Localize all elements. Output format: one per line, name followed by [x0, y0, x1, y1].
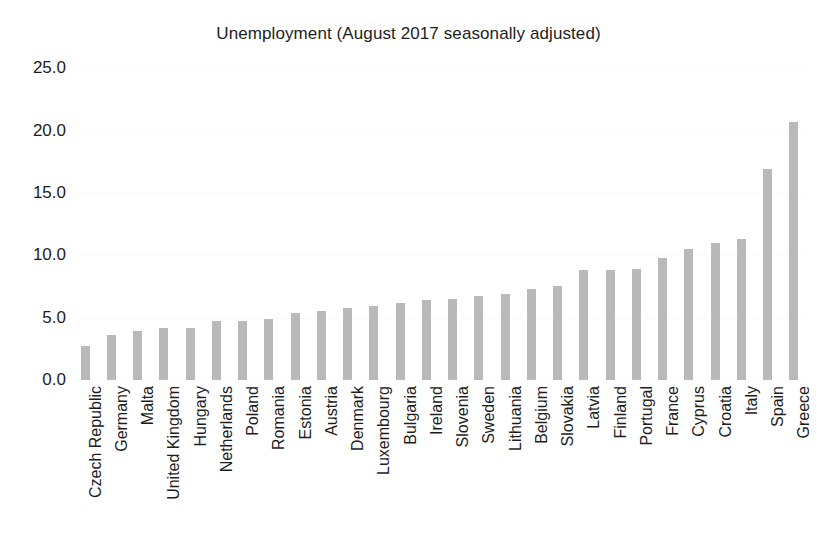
bar: [133, 331, 142, 380]
y-tick-label: 5.0: [0, 308, 66, 328]
bar: [369, 306, 378, 380]
x-tick-label: Slovenia: [455, 386, 471, 447]
x-tick-label: Czech Republic: [88, 386, 104, 498]
x-tick-label: France: [665, 386, 681, 436]
x-tick-label: Cyprus: [691, 386, 707, 437]
x-tick-label: Luxembourg: [376, 386, 392, 475]
y-tick-label: 10.0: [0, 245, 66, 265]
chart-figure: Unemployment (August 2017 seasonally adj…: [0, 0, 817, 552]
x-tick-label: Netherlands: [219, 386, 235, 472]
x-tick-label: Croatia: [718, 386, 734, 438]
x-tick-label: Lithuania: [508, 386, 524, 451]
x-tick-label: Malta: [140, 386, 156, 425]
bar: [107, 335, 116, 380]
bar: [448, 299, 457, 380]
x-tick-label: Denmark: [350, 386, 366, 451]
bar: [422, 300, 431, 380]
x-tick-label: Greece: [796, 386, 812, 438]
bar: [264, 319, 273, 380]
bar: [474, 296, 483, 380]
bar: [159, 328, 168, 380]
plot-area: [72, 57, 807, 380]
bar: [527, 289, 536, 380]
bar: [238, 321, 247, 380]
bar: [291, 313, 300, 380]
bar: [212, 321, 221, 380]
x-tick-label: Slovakia: [560, 386, 576, 446]
bar: [684, 249, 693, 380]
y-tick-label: 25.0: [0, 58, 66, 78]
x-tick-label: Bulgaria: [403, 386, 419, 445]
gridline: [72, 380, 807, 381]
x-tick-label: Estonia: [298, 386, 314, 439]
x-tick-label: Latvia: [586, 386, 602, 429]
x-tick-label: Belgium: [534, 386, 550, 444]
x-tick-label: Portugal: [639, 386, 655, 446]
x-tick-label: Austria: [324, 386, 340, 436]
bar: [396, 303, 405, 380]
bar: [763, 169, 772, 380]
bar: [501, 294, 510, 380]
bar: [711, 243, 720, 380]
x-tick-label: Sweden: [481, 386, 497, 444]
bar: [343, 308, 352, 380]
x-tick-label: Ireland: [429, 386, 445, 435]
y-tick-label: 0.0: [0, 370, 66, 390]
y-tick-label: 20.0: [0, 121, 66, 141]
bar: [606, 270, 615, 380]
x-tick-label: Germany: [114, 386, 130, 452]
x-tick-label: United Kingdom: [166, 386, 182, 500]
bar: [632, 269, 641, 380]
y-tick-label: 15.0: [0, 183, 66, 203]
bar: [579, 270, 588, 380]
x-axis: Czech RepublicGermanyMaltaUnited Kingdom…: [72, 386, 807, 546]
x-tick-label: Hungary: [193, 386, 209, 446]
x-tick-label: Italy: [744, 386, 760, 415]
bars-series: [72, 57, 807, 380]
bar: [658, 258, 667, 380]
bar: [81, 346, 90, 380]
x-tick-label: Spain: [770, 386, 786, 427]
y-axis: 0.05.010.015.020.025.0: [0, 0, 66, 552]
chart-title: Unemployment (August 2017 seasonally adj…: [0, 24, 817, 44]
bar: [186, 328, 195, 380]
x-tick-label: Poland: [245, 386, 261, 436]
bar: [789, 122, 798, 380]
x-tick-label: Romania: [271, 386, 287, 450]
bar: [737, 239, 746, 380]
bar: [317, 311, 326, 380]
bar: [553, 286, 562, 380]
x-tick-label: Finland: [613, 386, 629, 438]
